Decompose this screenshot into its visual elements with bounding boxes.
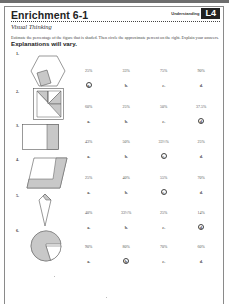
option[interactable]: 75%c. — [145, 68, 183, 91]
parallelogram-figure — [26, 157, 68, 189]
option[interactable]: 25%c. — [145, 210, 183, 233]
option-letter-circled: a. — [86, 82, 92, 88]
answer-options-3: 43%a. 50%b. 33⅓%c. 25%d. — [70, 139, 220, 162]
option[interactable]: 90%d. — [183, 68, 221, 91]
answer-options-4: 25%a. 40%b. 55%c. 70%d. — [70, 175, 220, 198]
option[interactable]: 50%b. — [108, 139, 146, 162]
option[interactable]: 43%a. — [70, 139, 108, 162]
option[interactable]: 25%a. — [70, 175, 108, 198]
rectangle-figure — [22, 124, 59, 150]
option[interactable]: 37.5%d. — [183, 104, 221, 127]
option[interactable]: 70%d. — [183, 175, 221, 198]
level-badge: L4 — [201, 8, 220, 19]
option[interactable]: 25%a. — [70, 68, 108, 91]
hexagon-figure — [30, 55, 66, 87]
option-letter-circled: c. — [161, 189, 167, 195]
kite-figure — [37, 193, 53, 227]
top-border-bar — [0, 0, 229, 3]
option[interactable]: 55%c. — [145, 175, 183, 198]
question-number: 5. — [16, 193, 19, 198]
scan-speck — [54, 276, 55, 277]
option[interactable]: 70%c. — [145, 244, 183, 267]
answer-options-1: 25%a. 33%b. 75%c. 90%d. — [70, 68, 220, 91]
option[interactable]: 25%d. — [183, 139, 221, 162]
answer-options-5: 40%a. 33⅓%b. 25%c. 14%d. — [70, 210, 220, 233]
option[interactable]: 14%d. — [183, 210, 221, 233]
worksheet-title: Enrichment 6-1 — [11, 9, 88, 21]
scan-speck — [106, 297, 107, 298]
option-letter-circled: c. — [161, 153, 167, 159]
option[interactable]: 60%a. — [70, 104, 108, 127]
circle-figure — [30, 230, 62, 262]
option[interactable]: 33%b. — [108, 68, 146, 91]
option[interactable]: 80%b. — [108, 244, 146, 267]
question-number: 1. — [16, 51, 19, 56]
option[interactable]: 40%a. — [70, 210, 108, 233]
answer-options-6: 90%a. 80%b. 70%c. 60%d. — [70, 244, 220, 267]
option-letter-circled: d. — [198, 224, 204, 230]
badge-label: Understanding — [171, 11, 199, 16]
option[interactable]: 40%b. — [108, 175, 146, 198]
answer-options-2: 60%a. 25%b. 50%c. 37.5%d. — [70, 104, 220, 127]
worksheet-subtitle: Visual Thinking — [11, 23, 52, 30]
option[interactable]: 90%a. — [70, 244, 108, 267]
option[interactable]: 25%b. — [108, 104, 146, 127]
option[interactable]: 50%c. — [145, 104, 183, 127]
question-number: 2. — [16, 89, 19, 94]
square-figure — [33, 88, 64, 120]
question-number: 3. — [16, 123, 19, 128]
title-divider — [11, 21, 220, 22]
option-letter-circled: d. — [198, 118, 204, 124]
option-letter-circled: b. — [123, 258, 129, 264]
question-number: 6. — [16, 228, 19, 233]
option[interactable]: 33⅓%b. — [108, 210, 146, 233]
instructions-emphasis: Explanations will vary. — [11, 40, 77, 47]
level-badge-group: Understanding L4 — [171, 8, 220, 19]
question-number: 4. — [16, 157, 19, 162]
option[interactable]: 60%d. — [183, 244, 221, 267]
instructions: Estimate the percentage of the figure th… — [11, 35, 221, 48]
option[interactable]: 33⅓%c. — [145, 139, 183, 162]
